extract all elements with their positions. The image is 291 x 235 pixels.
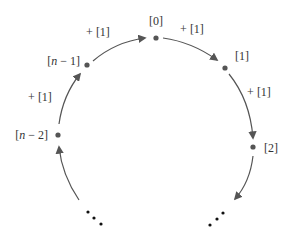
circular-buffer-diagram: [0] [1] [2] [n − 1] [n − 2] + [1] + [1] … (0, 0, 291, 235)
node-n-minus-1 (84, 62, 89, 67)
label-node-2: [2] (264, 141, 278, 155)
label-node-n-minus-1: [n − 1] (47, 54, 80, 68)
edge-n2-to-ellipsis (235, 156, 253, 199)
node-n-minus-2 (55, 132, 60, 137)
edge-ellipsis-to-nm2 (59, 147, 79, 200)
edge-label-n1-to-n2: + [1] (247, 85, 271, 99)
node-0 (153, 35, 158, 40)
label-node-0: [0] (149, 14, 163, 28)
node-2 (250, 144, 255, 149)
edge-nm2-to-nm1 (59, 74, 80, 124)
edge-n1-to-n2 (229, 74, 253, 138)
node-1 (222, 65, 227, 70)
ellipsis-lower-right (208, 211, 224, 226)
edge-label-n0-to-n1: + [1] (180, 22, 204, 36)
ellipsis-lower-left (86, 210, 102, 225)
label-node-1: [1] (235, 49, 249, 63)
edge-label-nm1-to-n0: + [1] (86, 25, 110, 39)
label-node-n-minus-2: [n − 2] (15, 128, 48, 142)
edge-nm1-to-n0 (93, 38, 145, 61)
edge-label-nm2-to-nm1: + [1] (28, 90, 52, 104)
edge-n0-to-n1 (163, 38, 217, 60)
